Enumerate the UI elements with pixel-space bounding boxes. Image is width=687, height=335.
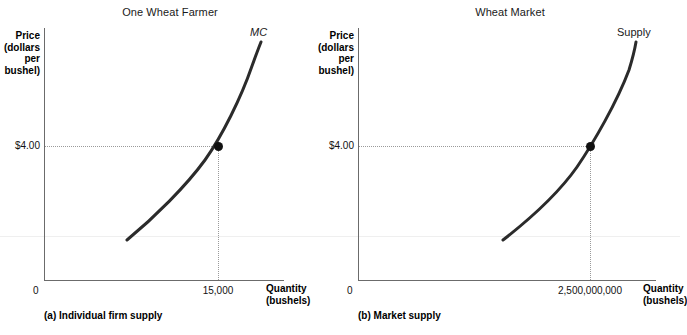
x-axis-caption-line-2: (bushels) — [643, 295, 687, 307]
origin-label: 0 — [347, 285, 353, 296]
x-axis-caption-line-2: (bushels) — [266, 295, 310, 307]
x-axis-caption: Quantity (bushels) — [643, 283, 687, 306]
panel-sub-caption: (b) Market supply — [358, 310, 441, 321]
x-axis-caption: Quantity (bushels) — [266, 283, 310, 306]
equilibrium-point — [214, 142, 223, 151]
x-tick-label-quantity: 2,500,000,000 — [537, 285, 643, 296]
equilibrium-point — [586, 142, 595, 151]
curve-label-mc: MC — [250, 26, 267, 38]
curve-label-supply: Supply — [617, 26, 651, 38]
x-axis-caption-line-1: Quantity — [266, 283, 310, 295]
x-axis-caption-line-1: Quantity — [643, 283, 687, 295]
panel-market-supply: Wheat Market Price (dollars per bushel) … — [340, 0, 680, 335]
panel-sub-caption: (a) Individual firm supply — [44, 310, 162, 321]
origin-label: 0 — [33, 285, 39, 296]
x-tick-label-quantity: 15,000 — [188, 285, 248, 296]
panel-individual-firm-supply: One Wheat Farmer Price (dollars per bush… — [0, 0, 340, 335]
